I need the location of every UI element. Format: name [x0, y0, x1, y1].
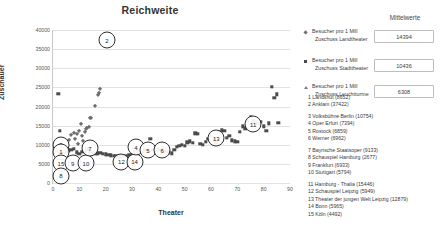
gridline	[53, 49, 290, 50]
city-index-item: 11 Hamburg - Thalia (15446)	[308, 181, 441, 188]
y-axis-tick: 10000	[36, 142, 50, 148]
callout-marker-10[interactable]: 10	[77, 155, 94, 172]
data-point	[228, 134, 231, 137]
city-index-item: 8 Schauspiel Hamburg (2677)	[308, 154, 441, 161]
x-axis-title: Theater	[52, 209, 290, 216]
city-index-item: 6 Werner (6962)	[308, 135, 441, 142]
data-point	[98, 87, 103, 92]
mittelwert-value: 10436	[374, 59, 434, 72]
data-point	[276, 121, 279, 124]
data-point	[57, 92, 60, 95]
city-index-item: 12 Schauspiel Leipzig (5949)	[308, 188, 441, 195]
scatter-plot: Zuschauer Theater 0500010000150002000025…	[0, 22, 300, 222]
data-point	[77, 129, 82, 134]
data-point	[58, 129, 61, 132]
data-point	[236, 140, 239, 143]
data-point	[191, 141, 194, 144]
y-axis-tick: 15000	[36, 123, 50, 129]
city-index-item: 7 Bayrische Staatsoper (9133)	[308, 147, 441, 154]
y-axis-tick: 20000	[36, 104, 50, 110]
x-axis-tick: 80	[261, 186, 267, 192]
city-index-item: 4 Oper Erfurt (7394)	[308, 120, 441, 127]
city-index-item: 9 Frankfurt (6933)	[308, 162, 441, 169]
gridline	[53, 30, 290, 31]
x-axis-tick: 40	[155, 186, 161, 192]
data-point	[204, 140, 207, 143]
city-index-item: 5 Rostock (6859)	[308, 128, 441, 135]
gridline	[53, 87, 290, 88]
diamond-marker	[303, 30, 308, 35]
city-index-item: 15 Köln (4492)	[308, 211, 441, 218]
callout-marker-2[interactable]: 2	[98, 32, 115, 49]
data-point	[238, 130, 241, 133]
gridline	[53, 107, 290, 108]
data-point	[196, 132, 199, 135]
x-axis-tick: 90	[287, 186, 293, 192]
y-axis-tick: 30000	[36, 65, 50, 71]
mittelwerte-header: Mittelwerte	[374, 14, 436, 21]
city-index-item: 10 Stuttgart (5794)	[308, 169, 441, 176]
mittelwert-value: 14394	[374, 30, 434, 43]
callout-marker-7[interactable]: 7	[81, 140, 98, 157]
data-point	[89, 115, 94, 120]
legend-panel: Mittelwerte Besucher pro 1 MillZuschuss …	[300, 0, 441, 241]
data-point	[270, 85, 273, 88]
plot-area: 0500010000150002000025000300003500040000…	[52, 30, 290, 184]
x-axis-tick: 60	[208, 186, 214, 192]
y-axis-tick: 35000	[36, 46, 50, 52]
callout-marker-13[interactable]: 13	[208, 130, 225, 147]
chart-screenshot: Reichweite Zuschauer Theater 05000100001…	[0, 0, 441, 241]
gridline	[53, 183, 290, 184]
y-axis-tick: 25000	[36, 84, 50, 90]
legend-label: Besucher pro 1 MillZuschuss Stadttheater	[312, 57, 376, 72]
data-point	[265, 129, 268, 132]
city-index-item: 2 Anklam (37422)	[308, 101, 441, 108]
callout-marker-11[interactable]: 11	[245, 116, 262, 133]
legend-label: Besucher pro 1 MillZuschuss Landtheater	[312, 28, 376, 43]
square-marker	[304, 60, 307, 63]
city-index-item: 14 Bonn (5965)	[308, 203, 441, 210]
data-point	[183, 144, 186, 147]
gridline	[53, 68, 290, 69]
triangle-marker	[304, 86, 308, 89]
data-point	[262, 125, 265, 128]
city-index-item: 3 Volksbühne Berlin (10754)	[308, 113, 441, 120]
y-axis-tick: 5000	[38, 161, 50, 167]
city-index-item: 13 Theater der jungen Welt Leipzig (1287…	[308, 196, 441, 203]
x-axis-tick: 10	[76, 186, 82, 192]
data-point	[80, 134, 85, 139]
city-index-item: 1 Landshut (8652)	[308, 94, 441, 101]
y-axis-tick: 40000	[36, 27, 50, 33]
x-axis-tick: 30	[129, 186, 135, 192]
data-point	[149, 137, 152, 140]
x-axis-tick: 20	[103, 186, 109, 192]
page-title: Reichweite	[0, 4, 300, 16]
data-point	[275, 93, 278, 96]
y-axis-title: Zuschauer	[0, 65, 5, 100]
data-point	[272, 96, 275, 99]
x-axis-tick: 0	[52, 186, 55, 192]
data-point	[73, 137, 78, 142]
data-point	[267, 122, 270, 125]
x-axis-tick: 70	[234, 186, 240, 192]
x-axis-tick: 50	[182, 186, 188, 192]
callout-marker-6[interactable]: 6	[154, 142, 171, 159]
y-axis-tick: 0	[47, 180, 50, 186]
city-index-list: 1 Landshut (8652)2 Anklam (37422)3 Volks…	[308, 94, 441, 218]
